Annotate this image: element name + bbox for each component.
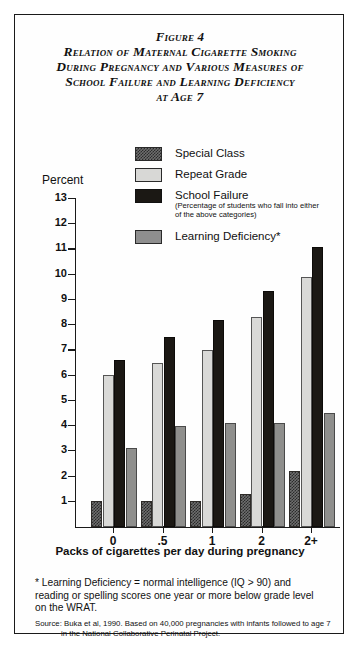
y-tick-mark [68,450,75,451]
y-tick-mark [68,223,75,224]
chart-plot-area: 12345678910111213 0.5122+ [75,198,340,528]
bar-school-failure [312,247,323,527]
y-tick-label: 1 [45,494,67,506]
x-axis-line [75,527,340,528]
bar-repeat-grade [103,375,114,526]
title-line-4: School Failure and Learning Deficiency [33,74,327,89]
y-tick-mark [68,425,75,426]
y-tick-label: 8 [45,317,67,329]
bar-repeat-grade [251,317,262,526]
x-tick-mark [212,526,213,533]
y-axis-title: Percent [42,173,83,187]
bar-school-failure [164,337,175,526]
bar-special-class [240,494,251,527]
y-tick-label: 7 [45,342,67,354]
light-gray-swatch-icon [135,168,162,182]
legend-label-repeat-grade: Repeat Grade [175,167,325,181]
bar-group [91,199,139,527]
bar-group [240,199,288,527]
y-tick-mark [68,299,75,300]
bar-learning-deficiency [324,413,335,527]
source-line-1: Source: Buka et al, 1990. Based on 40,00… [35,619,331,628]
x-tick-mark [262,526,263,533]
bar-learning-deficiency [225,423,236,526]
y-tick-label: 4 [45,418,67,430]
checkered-dark-swatch-icon [135,147,162,161]
footnote-learning-deficiency: * Learning Deficiency = normal intellige… [35,577,327,615]
bar-special-class [141,501,152,526]
source-line-2: in the National Collaborative Perinatal … [35,629,335,639]
y-tick-label: 2 [45,469,67,481]
y-tick-label: 11 [45,241,67,253]
source-note: Source: Buka et al, 1990. Based on 40,00… [35,619,335,639]
title-line-5: at Age 7 [33,89,327,104]
bar-learning-deficiency [274,423,285,526]
title-line-2: Relation of Maternal Cigarette Smoking [33,44,327,59]
y-tick-label: 5 [45,393,67,405]
bar-repeat-grade [152,363,163,527]
legend-label-special-class: Special Class [175,146,325,160]
bar-special-class [91,501,102,526]
legend-item-special-class: Special Class [135,146,325,166]
title-line-1: Figure 4 [33,29,327,44]
bar-repeat-grade [202,350,213,527]
bar-learning-deficiency [175,426,186,527]
y-tick-label: 9 [45,292,67,304]
x-axis-title: Packs of cigarettes per day during pregn… [15,545,345,557]
y-tick-label: 6 [45,368,67,380]
bar-group [141,199,189,527]
figure-title: Figure 4 Relation of Maternal Cigarette … [33,29,327,104]
y-tick-mark [68,324,75,325]
bar-learning-deficiency [126,448,137,526]
bar-school-failure [213,320,224,527]
bar-group [289,199,337,527]
x-tick-mark [113,526,114,533]
y-tick-mark [68,198,75,199]
y-tick-mark [68,476,75,477]
y-tick-mark [68,375,75,376]
title-line-3: During Pregnancy and Various Measures of [33,59,327,74]
y-tick-label: 3 [45,443,67,455]
bar-special-class [190,501,201,526]
bar-school-failure [114,360,125,527]
y-tick-mark [68,349,75,350]
y-tick-label: 10 [45,267,67,279]
bar-repeat-grade [301,277,312,527]
y-tick-label: 12 [45,216,67,228]
bar-school-failure [263,291,274,527]
y-tick-mark [68,248,75,249]
y-axis-line [75,198,76,527]
y-tick-mark [68,400,75,401]
y-tick-mark [68,274,75,275]
bar-special-class [289,471,300,527]
figure-frame: Figure 4 Relation of Maternal Cigarette … [14,14,344,634]
legend-item-repeat-grade: Repeat Grade [135,167,325,187]
x-tick-mark [163,526,164,533]
y-tick-label: 13 [45,191,67,203]
y-tick-mark [68,501,75,502]
x-tick-mark [311,526,312,533]
bar-group [190,199,238,527]
